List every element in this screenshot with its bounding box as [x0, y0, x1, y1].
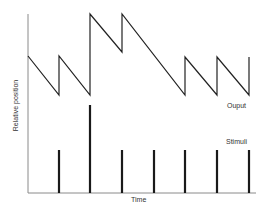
output-sawtooth-line — [28, 14, 249, 95]
output-series-label: Ouput — [227, 102, 246, 109]
chart-canvas — [0, 0, 265, 212]
stimuli-impulses — [59, 105, 249, 193]
stimuli-series-label: Stimuli — [226, 138, 247, 145]
y-axis-label: Relative position — [12, 74, 19, 138]
x-axis-label: Time — [131, 196, 146, 203]
